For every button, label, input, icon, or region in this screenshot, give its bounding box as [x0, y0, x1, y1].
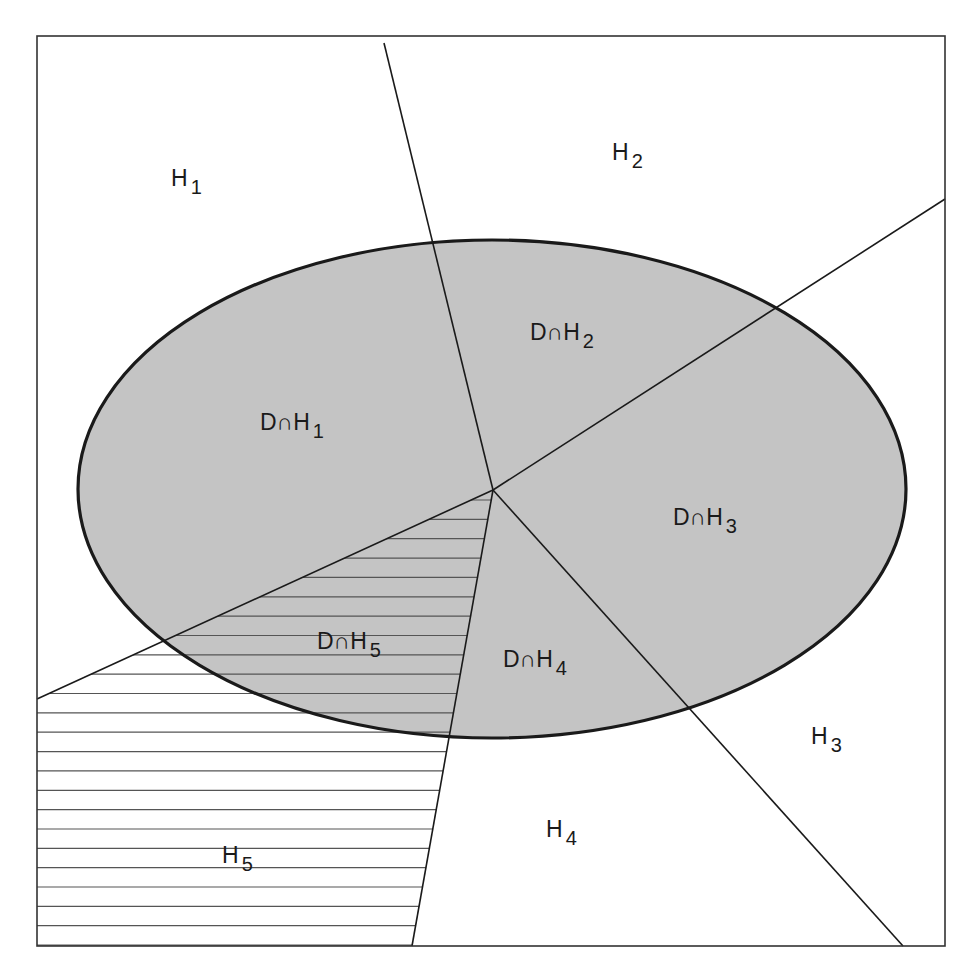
- region-label-h1: H1: [171, 165, 202, 198]
- region-label-h5: H5: [222, 842, 253, 875]
- region-label-h3: H3: [811, 723, 842, 756]
- region-label-h4: H4: [546, 816, 577, 849]
- region-label-h2: H2: [612, 139, 643, 172]
- partition-diagram: H1H2H3H4H5D∩H1D∩H2D∩H3D∩H4D∩H5: [0, 0, 974, 972]
